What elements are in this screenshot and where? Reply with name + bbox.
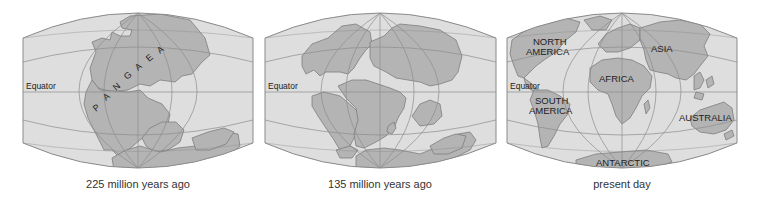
map-panel-present: Equator NORTH AMERICA SOUTH AMERICA AFRI… <box>0 0 757 203</box>
caption-present-day: present day <box>562 178 682 190</box>
label-africa: AFRICA <box>599 73 635 84</box>
label-asia: ASIA <box>651 43 673 54</box>
label-australia: AUSTRALIA <box>679 112 732 123</box>
label-antarctica: ANTARCTIC <box>596 157 650 168</box>
label-north-america-2: AMERICA <box>526 46 570 57</box>
equator-label: Equator <box>510 81 540 91</box>
world-map-present: Equator NORTH AMERICA SOUTH AMERICA AFRI… <box>0 0 757 203</box>
label-south-america-2: AMERICA <box>529 105 573 116</box>
